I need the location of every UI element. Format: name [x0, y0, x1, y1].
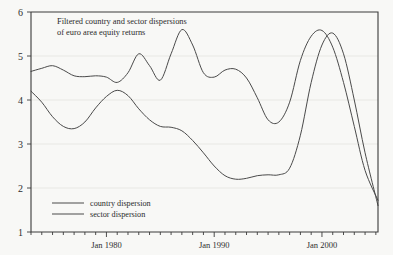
- y-axis-tick-label: 2: [18, 183, 23, 194]
- y-axis-tick-label: 3: [18, 139, 23, 150]
- x-axis-tick-label: Jan 1980: [91, 240, 121, 250]
- dispersion-line-chart: 123456 Jan 1980Jan 1990Jan 2000 Filtered…: [0, 0, 393, 255]
- y-axis-tick-label: 6: [18, 7, 23, 18]
- x-axis-tick-label: Jan 1990: [199, 240, 229, 250]
- chart-background: [0, 0, 393, 255]
- chart-title-line-2: of euro area equity returns: [57, 28, 145, 37]
- y-axis-tick-label: 1: [18, 227, 23, 238]
- chart-title-line-1: Filtered country and sector dispersions: [57, 17, 187, 26]
- chart-container: 123456 Jan 1980Jan 1990Jan 2000 Filtered…: [0, 0, 393, 255]
- x-axis-tick-label: Jan 2000: [307, 240, 337, 250]
- legend-label-country-dispersion: country dispersion: [90, 199, 151, 208]
- y-axis-tick-label: 4: [18, 95, 23, 106]
- legend-label-sector-dispersion: sector dispersion: [90, 210, 145, 219]
- y-axis-tick-label: 5: [18, 51, 23, 62]
